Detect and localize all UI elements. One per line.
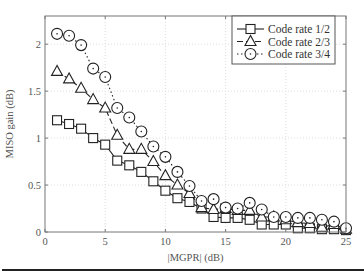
x-tick-label: 5: [103, 236, 108, 247]
x-tick-label: 15: [220, 236, 231, 247]
x-axis-label: |MGPR| (dB): [168, 252, 224, 264]
x-tick-label: 10: [160, 236, 171, 247]
legend-item: Code rate 1/2: [237, 23, 330, 35]
bottom-rule-divider: [2, 269, 364, 271]
legend-label: Code rate 3/4: [268, 48, 330, 60]
legend: Code rate 1/2Code rate 2/3Code rate 3/4: [232, 16, 335, 64]
legend-label: Code rate 1/2: [268, 23, 330, 35]
x-tick-label: 25: [341, 236, 352, 247]
y-tick-label: 0.5: [28, 180, 41, 191]
x-tick-label: 0: [42, 236, 47, 247]
legend-item: Code rate 3/4: [237, 48, 330, 60]
legend-label: Code rate 2/3: [268, 36, 330, 48]
y-tick-label: 0: [36, 227, 41, 238]
y-tick-label: 1.5: [28, 86, 41, 97]
y-axis-label: MISO gain (dB): [4, 89, 16, 158]
y-tick-label: 2: [36, 39, 41, 50]
legend-item: Code rate 2/3: [237, 36, 330, 48]
chart: 051015202500.511.52 |MGPR| (dB) MISO gai…: [0, 0, 364, 280]
y-tick-label: 1: [36, 133, 41, 144]
series-triangle: [52, 65, 352, 233]
x-tick-label: 20: [281, 236, 292, 247]
